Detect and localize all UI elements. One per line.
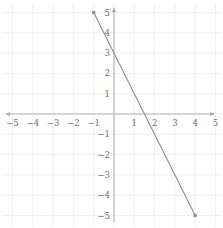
x-tick-label: −3 (47, 119, 60, 128)
y-tick-label: 3 (105, 49, 110, 58)
y-tick-label: 5 (105, 8, 110, 17)
x-tick-label: −4 (27, 119, 40, 128)
y-tick-label: −4 (97, 191, 110, 200)
x-tick-label: −1 (87, 119, 100, 128)
y-tick-label: 2 (105, 69, 110, 78)
grid-lines (2, 4, 222, 227)
y-tick-label: 4 (105, 28, 110, 37)
x-tick-label: −2 (67, 119, 80, 128)
coordinate-plane-chart: −5−4−3−2−11234554321−1−2−3−4−5 (0, 0, 223, 228)
x-tick-label: 3 (172, 119, 177, 128)
x-tick-label: −5 (6, 119, 19, 128)
y-tick-label: −1 (97, 130, 110, 139)
y-tick-label: −2 (97, 150, 110, 159)
x-tick-label: 1 (132, 119, 137, 128)
y-tick-label: −5 (97, 211, 110, 220)
x-tick-label: 2 (152, 119, 157, 128)
y-tick-label: 1 (105, 89, 110, 98)
x-tick-label: 5 (213, 119, 218, 128)
y-tick-label: −3 (97, 170, 110, 179)
series-endpoint-marker-0 (92, 11, 95, 14)
x-tick-label: 4 (192, 119, 197, 128)
series-endpoint-marker-1 (194, 214, 197, 217)
chart-canvas (0, 0, 223, 228)
